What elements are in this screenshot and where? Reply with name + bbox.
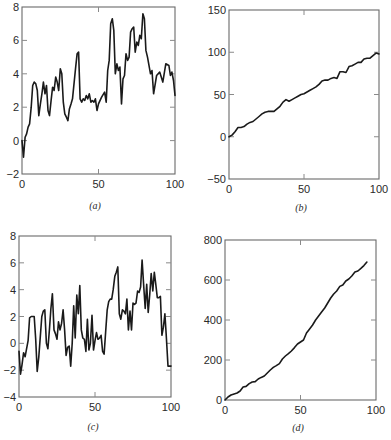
y-tick-label: 400 — [204, 314, 222, 326]
y-tick-label: 800 — [204, 234, 222, 246]
chart-d-svg: 0200400600800050100(d) — [0, 0, 391, 440]
x-tick-label: 50 — [294, 404, 306, 416]
x-tick-label: 100 — [367, 404, 385, 416]
panel-caption-d: (d) — [292, 422, 304, 434]
chart-panel-d: 0200400600800050100(d) (d) — [0, 0, 391, 440]
y-tick-label: 200 — [204, 354, 222, 366]
axes-frame-d — [225, 240, 376, 400]
series-line-d — [225, 262, 367, 400]
x-tick-label: 0 — [222, 404, 228, 416]
figure: −202468050100(a) (a) −50050100150050100(… — [0, 0, 391, 440]
y-tick-label: 600 — [204, 274, 222, 286]
